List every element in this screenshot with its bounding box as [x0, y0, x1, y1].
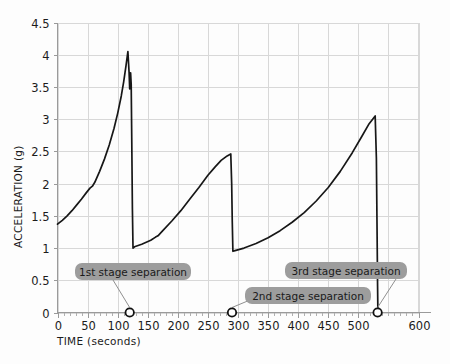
- y-tick-label: 2: [42, 178, 49, 192]
- x-tick-label: 400: [288, 319, 310, 333]
- x-tick-label: 350: [258, 319, 280, 333]
- y-tick-label: 2.5: [31, 145, 49, 159]
- annotation-text-stage2: 2nd stage separation: [252, 290, 364, 302]
- annotations-layer: 1st stage separation2nd stage separation…: [75, 262, 407, 317]
- y-tick-label: 1.5: [31, 210, 49, 224]
- annotation-leader-line: [113, 280, 130, 308]
- x-tick-label: 600: [409, 319, 431, 333]
- x-tick-label: 50: [81, 319, 96, 333]
- x-tick-label: 100: [108, 319, 130, 333]
- y-tick-label: 0.5: [31, 274, 49, 288]
- annotation-text-stage1: 1st stage separation: [79, 266, 187, 278]
- y-tick-label: 3: [42, 113, 49, 127]
- separation-marker-stage1: [126, 308, 134, 316]
- x-tick-label: 250: [198, 319, 220, 333]
- y-tick-label: 1: [42, 242, 49, 256]
- separation-marker-stage3: [373, 308, 381, 316]
- x-tick-label: 150: [138, 319, 160, 333]
- x-axis-title: TIME (seconds): [56, 335, 141, 347]
- chart-canvas: 00.511.522.533.544.505010015020025030035…: [0, 0, 450, 364]
- y-axis-title: ACCELERATION (g): [12, 145, 24, 248]
- x-tick-label: 450: [318, 319, 340, 333]
- y-tick-label: 0: [42, 307, 49, 321]
- acceleration-chart: 00.511.522.533.544.505010015020025030035…: [0, 0, 450, 364]
- annotation-text-stage3: 3rd stage separation: [291, 265, 400, 277]
- y-tick-label: 3.5: [31, 81, 49, 95]
- y-tick-label: 4: [42, 49, 49, 63]
- x-tick-label: 500: [348, 319, 370, 333]
- x-tick-label: 0: [55, 319, 62, 333]
- y-tick-label: 4.5: [31, 17, 49, 31]
- annotation-leader-line: [378, 279, 396, 308]
- separation-marker-stage2: [228, 308, 236, 316]
- x-tick-label: 300: [228, 319, 250, 333]
- x-tick-label: 200: [168, 319, 190, 333]
